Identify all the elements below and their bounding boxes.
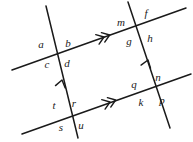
angle-label-g: g bbox=[126, 36, 132, 47]
lines-group bbox=[12, 2, 191, 138]
lower-transversal-double-arrow bbox=[102, 95, 118, 109]
line-lower-transversal bbox=[22, 74, 191, 134]
angle-label-n: n bbox=[155, 72, 161, 83]
angle-label-d: d bbox=[64, 58, 70, 69]
angle-label-k: k bbox=[139, 97, 144, 108]
upper-transversal-double-arrow bbox=[96, 30, 112, 44]
angle-label-s: s bbox=[59, 122, 63, 133]
angle-label-r: r bbox=[72, 98, 76, 109]
figure-canvas bbox=[0, 0, 193, 142]
angle-label-b: b bbox=[65, 38, 71, 49]
angle-label-h: h bbox=[147, 33, 153, 44]
angle-label-p: p bbox=[159, 95, 165, 106]
line-left-slant bbox=[46, 6, 78, 138]
angle-label-q: q bbox=[131, 79, 137, 90]
angle-label-a: a bbox=[38, 39, 44, 50]
angle-label-f: f bbox=[144, 8, 147, 19]
angle-label-m: m bbox=[117, 17, 125, 28]
geometry-figure: abcdmfghtrsuqnkp bbox=[0, 0, 193, 142]
angle-label-u: u bbox=[78, 120, 84, 131]
angle-label-c: c bbox=[45, 59, 50, 70]
angle-label-t: t bbox=[52, 100, 55, 111]
